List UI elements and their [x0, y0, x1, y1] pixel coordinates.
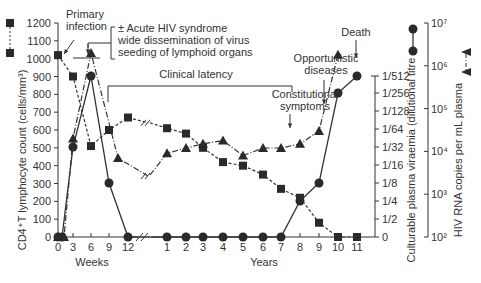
legend-square-icon	[6, 19, 14, 27]
y-tick-right-rna: 10⁶	[431, 60, 448, 72]
annotation-acute-2: wide dissemination of virus	[117, 34, 250, 46]
rna-marker	[181, 143, 191, 152]
y-tick-right-viraemia: 0	[382, 231, 388, 243]
y-tick-right-rna: 10⁵	[431, 103, 448, 115]
annotation-acute-3: seeding of lymphoid organs	[118, 46, 253, 58]
x-tick-weeks: 0	[55, 241, 61, 253]
cd4-marker	[54, 51, 62, 59]
y-tick-left: 400	[33, 160, 51, 172]
viraemia-marker	[296, 197, 305, 206]
viraemia-marker	[163, 233, 172, 242]
x-tick-weeks: 6	[88, 241, 94, 253]
cd4-marker	[69, 73, 77, 81]
x-tick-years: 8	[297, 241, 303, 253]
viraemia-marker	[277, 233, 286, 242]
y-tick-left: 1200	[27, 17, 51, 29]
y-tick-left: 1100	[27, 35, 51, 47]
y-tick-right-rna: 10⁴	[431, 145, 448, 157]
annotation-opportunistic-2: diseases	[304, 64, 348, 76]
cd4-marker	[163, 124, 171, 132]
x-tick-years: 6	[260, 241, 266, 253]
y-tick-right-rna: 10³	[431, 188, 447, 200]
viraemia-marker	[315, 179, 324, 188]
arrow-icon	[288, 123, 292, 128]
viraemia-marker	[124, 233, 133, 242]
viraemia-marker	[219, 233, 228, 242]
y-tick-right-viraemia: 1/4	[382, 195, 397, 207]
hiv-course-chart: 0100200300400500600700800900100011001200…	[0, 0, 481, 283]
y-tick-left: 800	[33, 88, 51, 100]
y-tick-right-viraemia: 1/8	[382, 177, 397, 189]
cd4-marker	[259, 171, 267, 179]
x-tick-years: 11	[351, 241, 362, 253]
y-tick-left: 0	[45, 231, 51, 243]
x-tick-years: 5	[240, 241, 246, 253]
x-tick-weeks: 9	[106, 241, 112, 253]
rna-marker	[314, 126, 324, 135]
x-label-years: Years	[250, 256, 278, 268]
arrow-icon	[64, 49, 68, 54]
cd4-marker	[353, 233, 361, 241]
x-tick-years: 3	[200, 241, 206, 253]
x-tick-years: 7	[278, 241, 284, 253]
x-tick-years: 9	[316, 241, 322, 253]
y-tick-right-viraemia: 1/64	[382, 123, 403, 135]
y-tick-left: 600	[33, 124, 51, 136]
annotation-constitutional-1: Constitutional	[272, 88, 339, 100]
annotation-death: Death	[341, 26, 370, 38]
y-tick-right-viraemia: 1/2	[382, 213, 397, 225]
x-tick-weeks: 12	[122, 241, 134, 253]
viraemia-marker	[353, 72, 362, 81]
cd4-marker	[182, 130, 190, 138]
y-tick-right-rna: 10⁷	[431, 17, 447, 29]
y-tick-right-rna: 10²	[431, 231, 447, 243]
annotation-primary-infection-2: infection	[66, 20, 107, 32]
cd4-marker	[87, 142, 95, 150]
y-tick-left: 100	[33, 213, 51, 225]
y-tick-left: 700	[33, 106, 51, 118]
y-tick-right-viraemia: 1/32	[382, 141, 403, 153]
x-label-weeks: Weeks	[75, 256, 109, 268]
viraemia-marker	[199, 233, 208, 242]
viraemia-marker	[87, 72, 96, 81]
viraemia-marker	[259, 233, 268, 242]
annotation-primary-infection-1: Primary	[66, 8, 104, 20]
y-tick-left: 200	[33, 195, 51, 207]
x-tick-years: 2	[183, 241, 189, 253]
cd4-marker	[277, 185, 285, 193]
y-label-left: CD4⁺T lymphocyte count (cells/mm³)	[16, 70, 28, 251]
annotation-constitutional-2: symptoms	[280, 100, 331, 112]
cd4-marker	[105, 126, 113, 134]
cd4-marker	[124, 114, 132, 122]
y-tick-left: 1000	[27, 53, 51, 65]
y-tick-left: 500	[33, 142, 51, 154]
x-tick-years: 4	[220, 241, 226, 253]
rna-marker	[113, 153, 123, 162]
x-tick-years: 10	[332, 241, 344, 253]
rna-marker	[218, 135, 228, 144]
y-label-right-rna: HIV RNA copies per mL plasma	[452, 82, 464, 237]
annotation-clinical-latency: Clinical latency	[159, 68, 233, 80]
legend-square-icon	[6, 49, 14, 57]
viraemia-marker	[182, 233, 191, 242]
annotation-opportunistic-1: Opportunistic	[294, 52, 359, 64]
rna-marker	[295, 139, 305, 148]
y-tick-left: 900	[33, 71, 51, 83]
y-tick-right-viraemia: 1/16	[382, 159, 403, 171]
rna-marker	[162, 148, 172, 157]
x-tick-weeks: 3	[70, 241, 76, 253]
cd4-marker	[239, 162, 247, 170]
viraemia-marker	[239, 233, 248, 242]
cd4-marker	[334, 233, 342, 241]
cd4-marker	[219, 158, 227, 166]
y-label-right-viraemia: Culturable plasma viraemia (dilutional t…	[405, 58, 417, 263]
cd4-marker	[315, 219, 323, 227]
x-tick-years: 1	[164, 241, 170, 253]
y-tick-left: 300	[33, 178, 51, 190]
viraemia-marker	[105, 179, 114, 188]
annotation-acute-1: ± Acute HIV syndrome	[118, 22, 227, 34]
rna-marker	[238, 151, 248, 160]
